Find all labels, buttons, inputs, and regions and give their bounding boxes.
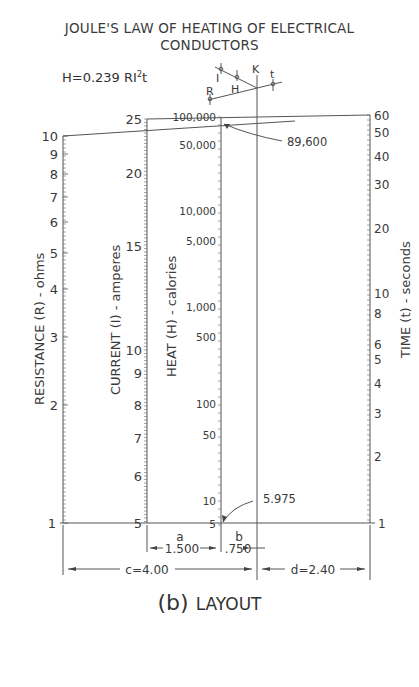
h-tick-500: 500 [196,331,216,343]
dim-c: c=4.00 [125,563,168,577]
isopleth-upper-1 [63,121,295,136]
i-tick-20: 20 [125,166,142,181]
i-tick-7: 7 [134,431,142,446]
key-label-h: H [231,83,239,96]
t-tick-20: 20 [374,222,389,236]
r-tick-6: 6 [50,215,58,230]
t-tick-50: 50 [374,126,389,140]
i-tick-8: 8 [134,398,142,413]
dim-b-value: .750 [225,542,252,556]
key-label-r: R [206,85,214,98]
t-tick-6: 6 [374,338,382,352]
i-tick-9: 9 [134,366,142,381]
annotation-89600: 89,600 [287,135,327,149]
arrow-5975 [223,501,253,522]
arrow-89600 [224,124,282,141]
i-tick-6: 6 [134,469,142,484]
i-tick-10: 10 [125,343,142,358]
t-tick-2: 2 [374,450,382,464]
i-tick-25: 25 [125,112,142,127]
r-tick-9: 9 [50,147,58,162]
t-tick-8: 8 [374,307,382,321]
r-tick-2: 2 [50,398,58,413]
heat-axis-label: HEAT (H) - calories [164,256,179,377]
t-tick-4: 4 [374,377,382,391]
dim-d: d=2.40 [291,563,335,577]
i-tick-15: 15 [125,239,142,254]
t-tick-10: 10 [374,287,389,301]
r-tick-4: 4 [50,282,58,297]
t-tick-60: 60 [374,109,389,123]
r-tick-3: 3 [50,330,58,345]
r-tick-1: 1 [48,516,56,531]
h-tick-10: 10 [203,495,216,507]
resistance-axis-label: RESISTANCE (R) - ohms [32,252,47,405]
t-tick-3: 3 [374,407,382,421]
caption-text: LAYOUT [196,594,262,614]
t-tick-40: 40 [374,150,389,164]
h-tick-10000: 10,000 [179,205,216,217]
annotation-5975: 5.975 [263,492,296,506]
h-tick-50: 50 [203,429,216,441]
t-tick-1: 1 [378,517,386,531]
r-tick-10: 10 [41,129,58,144]
t-tick-30: 30 [374,178,389,192]
current-axis-label: CURRENT (I) - amperes [108,244,123,395]
time-axis-label: TIME (t) - seconds [398,241,413,359]
h-tick-5000: 5,000 [186,235,216,247]
h-tick-100000: 100,000 [173,111,216,123]
r-tick-5: 5 [50,246,58,261]
h-tick-1000: 1,000 [186,301,216,313]
key-label-k: K [252,63,260,76]
h-tick-100: 100 [196,398,216,410]
h-tick-5: 5 [209,518,216,530]
i-tick-5: 5 [134,516,142,531]
key-label-t: t [270,68,275,81]
h-tick-50000: 50,000 [179,139,216,151]
caption: (b) LAYOUT [0,590,419,615]
caption-prefix: (b) [158,590,189,615]
r-tick-7: 7 [50,190,58,205]
dim-a-value: 1.500 [165,542,199,556]
t-tick-5: 5 [374,353,382,367]
nomogram: I H K R t 10 9 8 7 6 5 4 3 2 1 25 20 15 … [0,0,419,687]
r-tick-8: 8 [50,167,58,182]
key-label-i: I [216,72,219,85]
